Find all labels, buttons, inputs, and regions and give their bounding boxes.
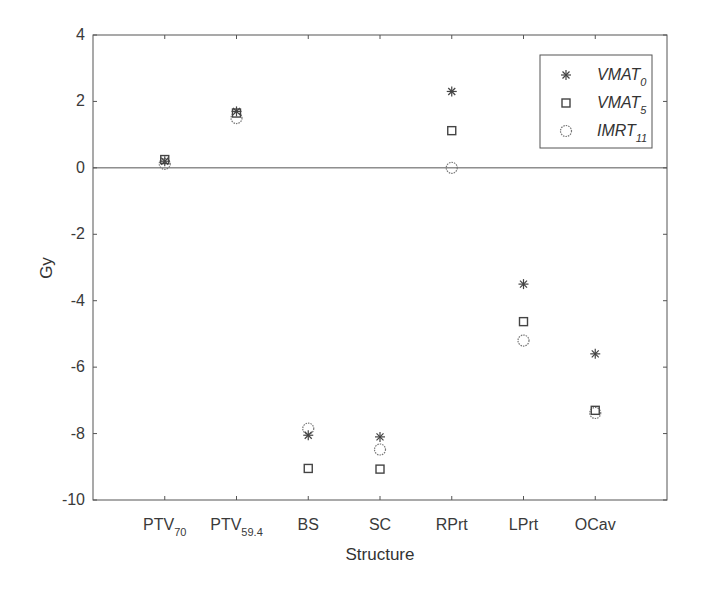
asterisk-marker — [590, 349, 600, 359]
y-tick-label: -8 — [71, 425, 85, 442]
y-tick-label: -6 — [71, 358, 85, 375]
x-tick-label: LPrt — [509, 516, 539, 533]
circle-marker — [518, 335, 529, 346]
x-tick-label: RPrt — [436, 516, 469, 533]
asterisk-marker — [375, 432, 385, 442]
x-tick-label: SC — [369, 516, 391, 533]
asterisk-marker — [447, 86, 457, 96]
x-tick-label: PTV70 — [143, 516, 186, 538]
circle-marker — [375, 444, 386, 455]
asterisk-marker — [303, 430, 313, 440]
data-points — [159, 86, 601, 473]
x-tick-label: BS — [298, 516, 319, 533]
y-tick-label: 0 — [76, 159, 85, 176]
square-marker — [376, 465, 384, 473]
legend: VMAT0VMAT5IMRT11 — [540, 55, 652, 148]
y-tick-label: 4 — [76, 26, 85, 43]
y-tick-label: -2 — [71, 225, 85, 242]
x-tick-label: PTV59.4 — [210, 516, 263, 538]
series-imrt11 — [159, 113, 601, 455]
y-tick-label: -10 — [62, 491, 85, 508]
x-axis-label: Structure — [346, 545, 415, 564]
square-marker — [520, 318, 528, 326]
asterisk-marker — [160, 156, 170, 166]
asterisk-marker — [519, 279, 529, 289]
y-tick-label: -4 — [71, 292, 85, 309]
y-tick-label: 2 — [76, 92, 85, 109]
asterisk-marker — [561, 70, 571, 80]
series-vmat0 — [160, 86, 601, 441]
asterisk-marker — [232, 106, 242, 116]
scatter-chart: -10-8-6-4-2024 PTV70PTV59.4BSSCRPrtLPrtO… — [0, 0, 702, 594]
y-axis-label: Gy — [37, 257, 56, 279]
series-vmat5 — [161, 109, 600, 473]
x-tick-label: OCav — [575, 516, 616, 533]
square-marker — [448, 127, 456, 135]
square-marker — [304, 464, 312, 472]
